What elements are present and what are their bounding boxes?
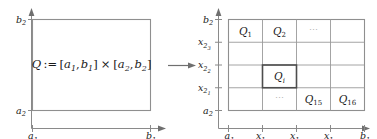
domain-definition-formula: Q:=[a1,b1]×[a2,b2] xyxy=(32,57,152,73)
cell-label-Q16: Q16 xyxy=(339,93,357,108)
cell-label-Q2: Q2 xyxy=(273,25,286,40)
right-x-label-b1: b1 xyxy=(360,130,370,139)
transform-arrow-head xyxy=(188,63,196,69)
right-y-axis-arrowhead xyxy=(216,8,222,16)
right-y-label-x23: x23 xyxy=(198,36,212,51)
left-x-label-a1: a1 xyxy=(28,130,38,139)
cell-label-Q15: Q15 xyxy=(305,93,323,108)
left-y-label-b2: b2 xyxy=(16,14,26,28)
cell-label-Qi: Qi xyxy=(274,70,285,85)
right-y-label-x22: x22 xyxy=(198,59,211,74)
right-y-label-b2: b2 xyxy=(203,14,213,28)
rectangle-partition-figure: b2 a2 a1 b1 Q:=[a1,b1]×[a2,b2] xyxy=(0,0,377,139)
cell-label-Q1: Q1 xyxy=(239,25,252,40)
right-x-label-a1: a1 xyxy=(225,130,235,139)
map-arrow-group xyxy=(168,63,196,69)
right-y-label-x21: x21 xyxy=(198,82,211,97)
left-panel: b2 a2 a1 b1 Q:=[a1,b1]×[a2,b2] xyxy=(16,8,166,139)
right-y-label-a2: a2 xyxy=(203,105,213,119)
right-panel: b2 x23 x22 x21 a2 a1 x11 x12 x13 b1 xyxy=(198,8,370,139)
left-x-axis-arrowhead xyxy=(158,126,166,132)
left-y-axis-arrowhead xyxy=(29,8,35,16)
left-y-label-a2: a2 xyxy=(16,105,26,119)
left-x-label-b1: b1 xyxy=(146,130,156,139)
ellipsis-bottom-row: ⋯ xyxy=(275,93,285,103)
ellipsis-top-row: ⋯ xyxy=(309,25,319,35)
